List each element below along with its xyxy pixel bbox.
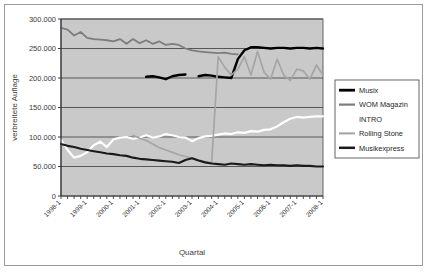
x-tick-label: 2008-1: [304, 199, 324, 219]
legend-item-label: WOM Magazin: [359, 100, 408, 109]
y-tick-label: 50.000: [33, 162, 56, 171]
x-tick-label: 2001-1: [121, 199, 141, 219]
x-tick-label: 2005-1: [226, 199, 246, 219]
y-tick-label: 100.000: [29, 133, 56, 142]
y-tick-label: 200.000: [29, 74, 56, 83]
x-tick-label: 2003-1: [173, 199, 193, 219]
x-axis-title: Quartal: [179, 248, 205, 257]
x-axis-tick-labels: 1998-11999-12000-12001-12002-12003-12004…: [42, 199, 324, 219]
x-tick-label: 2002-1: [147, 199, 167, 219]
legend-item-label: Musix: [359, 86, 379, 95]
chart-container: 050.000100.000150.000200.000250.000300.0…: [5, 5, 424, 267]
chart-legend: MusixWOM MagazinINTRORolling StoneMusike…: [335, 80, 419, 158]
legend-item-label: Musikexpress: [359, 144, 404, 153]
x-tick-label: 1998-1: [42, 199, 62, 219]
legend-item-label: Rolling Stone: [359, 129, 403, 138]
y-tick-label: 250.000: [29, 44, 56, 53]
y-tick-label: 300.000: [29, 15, 56, 24]
x-tick-label: 2000-1: [95, 199, 115, 219]
x-tick-label: 1999-1: [68, 199, 88, 219]
x-tick-label: 2007-1: [278, 199, 298, 219]
y-axis-title: verbreitete Auflage: [10, 74, 19, 141]
y-tick-label: 150.000: [29, 103, 56, 112]
y-axis-tick-labels: 050.000100.000150.000200.000250.000300.0…: [29, 15, 56, 201]
legend-item-label: INTRO: [359, 115, 382, 124]
chart-frame: 050.000100.000150.000200.000250.000300.0…: [4, 4, 423, 266]
circulation-line-chart: 050.000100.000150.000200.000250.000300.0…: [5, 5, 424, 267]
x-tick-label: 2004-1: [199, 199, 219, 219]
x-tick-label: 2006-1: [252, 199, 272, 219]
